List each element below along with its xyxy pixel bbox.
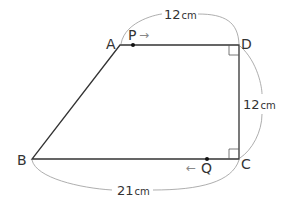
right-angle-mark-d: [229, 45, 239, 55]
vertex-label-c: C: [241, 156, 251, 172]
dimension-top-unit: cm: [182, 10, 197, 21]
arrow-right-icon: →: [139, 28, 149, 42]
dimension-right-number: 12: [243, 97, 260, 112]
vertex-label-b: B: [17, 152, 27, 168]
dimension-right-unit: cm: [261, 100, 276, 111]
dimension-top-number: 12: [164, 7, 181, 22]
dimension-bottom-number: 21: [117, 183, 134, 198]
dimension-bottom-unit: cm: [135, 186, 150, 197]
trapezoid-abcd: [32, 45, 239, 159]
vertex-label-d: D: [241, 36, 252, 52]
dimension-right-value: 12cm: [243, 97, 276, 112]
vertex-label-a: A: [106, 36, 116, 52]
arrow-left-icon: ←: [186, 161, 196, 175]
point-label-q: Q: [201, 160, 212, 176]
trapezoid-diagram: A D C B P → Q ← 12cm 12cm 21cm: [0, 0, 292, 207]
dimension-bottom-value: 21cm: [117, 183, 150, 198]
point-p-dot: [131, 43, 135, 47]
right-angle-mark-c: [229, 149, 239, 159]
point-label-p: P: [128, 27, 136, 43]
dimension-top-value: 12cm: [164, 7, 197, 22]
